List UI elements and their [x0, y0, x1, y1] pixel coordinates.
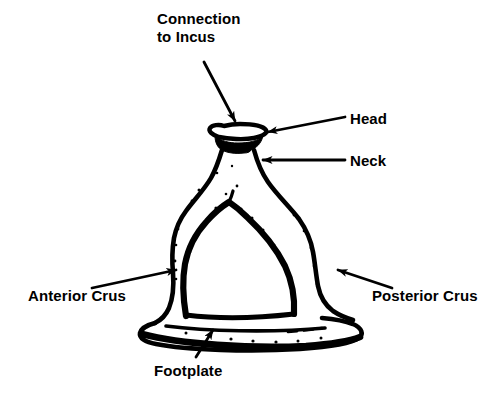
leader-line-connection-to-incus — [204, 62, 235, 121]
label-footplate: Footplate — [154, 362, 222, 380]
foramen-bottom-edge — [186, 314, 294, 318]
bone-drawing — [140, 124, 362, 350]
leader-line-head — [268, 117, 345, 132]
neck-and-posterior-outer-edge — [254, 150, 353, 320]
label-anterior-crus: Anterior Crus — [28, 287, 126, 305]
crura-apex-ridge — [229, 191, 233, 202]
footplate-top-edge — [166, 326, 325, 331]
leader-line-posterior-crus — [338, 270, 392, 288]
label-connection-to-incus: Connection to Incus — [157, 10, 241, 46]
stapes-anatomy-figure: Connection to Incus Head Neck Anterior C… — [0, 0, 502, 412]
stapes-outline — [209, 124, 266, 139]
label-neck: Neck — [350, 152, 386, 170]
leader-line-anterior-crus — [92, 270, 176, 288]
obturator-foramen-contour — [183, 202, 294, 316]
label-head: Head — [350, 110, 387, 128]
stapes-illustration — [0, 0, 502, 412]
label-posterior-crus: Posterior Crus — [372, 287, 478, 305]
neck-and-anterior-outer-edge — [155, 150, 222, 323]
